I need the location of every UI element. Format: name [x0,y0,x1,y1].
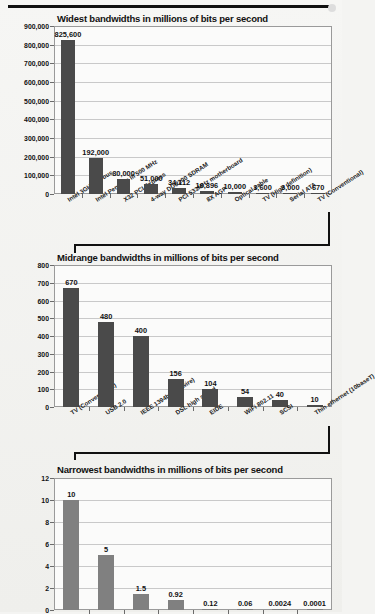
y-axis-tick-mark [50,26,54,27]
chart-title: Narrowest bandwidths in millions of bits… [57,464,283,475]
bar-value-label: 0.0001 [303,599,326,608]
chart-y-axis-label: Millions of Bits per second [0,24,12,184]
bar-value-label: 1.5 [136,584,146,593]
x-axis-tick-mark [193,194,194,198]
y-axis-tick-mark [50,588,54,589]
x-axis-tick-mark [263,610,264,614]
y-axis-tick-label: 900,000 [24,23,49,30]
bar [133,336,149,407]
y-axis-tick-mark [50,101,54,102]
x-axis-tick-mark [193,610,194,614]
chart-widest-bandwidths: Widest bandwidths in millions of bits pe… [0,10,342,230]
grid-line [55,354,331,355]
grid-line [55,119,331,120]
y-axis-tick-label: 800,000 [24,41,49,48]
bar [133,594,149,611]
connector-bracket-1 [0,228,342,252]
y-axis-tick-mark [50,301,54,302]
y-axis-tick-label: 600,000 [24,79,49,86]
bar-value-label: 0.0024 [269,599,292,608]
bar-value-label: 192,000 [82,148,109,157]
x-axis-tick-mark [110,194,111,198]
chart-title: Midrange bandwidths in millions of bits … [57,252,279,263]
bar-value-label: 10 [67,490,75,499]
grid-line [55,372,331,373]
grid-line [55,45,331,46]
y-axis-tick-label: 600 [38,297,50,304]
x-axis-tick-mark [297,407,298,411]
bar [168,379,184,407]
x-axis-tick-mark [276,194,277,198]
x-axis-tick-mark [249,194,250,198]
y-axis-tick-label: 200 [38,368,50,375]
x-axis-tick-mark [89,610,90,614]
grid-line [55,588,331,589]
grid-line [55,301,331,302]
bar [307,609,323,610]
bar-value-label: 0.12 [203,599,217,608]
grid-line [55,500,331,501]
y-axis-tick-mark [50,45,54,46]
y-axis-tick-mark [50,318,54,319]
x-axis-tick-mark [263,407,264,411]
y-axis-tick-label: 100 [38,386,50,393]
y-axis-tick-label: 400,000 [24,116,49,123]
grid-line [55,566,331,567]
y-axis-tick-label: 6 [45,541,49,548]
chart-narrowest-bandwidths: Narrowest bandwidths in millions of bits… [0,462,342,612]
bar-value-label: 34,112 [168,178,190,187]
bar-value-label: 670 [65,278,77,287]
y-axis-tick-label: 0 [45,191,49,198]
y-axis-tick-label: 0 [45,607,49,614]
y-axis-tick-mark [50,478,54,479]
bar-value-label: 5 [104,545,108,554]
y-axis-tick-label: 2 [45,585,49,592]
x-axis-tick-mark [124,407,125,411]
bar-value-label: 0.92 [168,590,182,599]
grid-line [55,82,331,83]
y-axis-tick-label: 8 [45,519,49,526]
grid-line [55,336,331,337]
bar [168,600,184,610]
y-axis-tick-mark [50,372,54,373]
y-axis-tick-label: 300,000 [24,135,49,142]
bar-value-label: 400 [135,326,147,335]
grid-line [55,522,331,523]
grid-line [55,544,331,545]
x-axis-tick-mark [137,194,138,198]
y-axis-tick-mark [50,119,54,120]
y-axis-tick-label: 500 [38,315,50,322]
header-rule [8,5,334,8]
grid-line [55,318,331,319]
bar [272,609,288,610]
grid-line [55,283,331,284]
y-axis-tick-mark [50,354,54,355]
chart-y-axis-label: Millions of Bits per second [0,478,12,608]
y-axis-tick-mark [50,407,54,408]
x-axis-tick-mark [221,194,222,198]
y-axis-tick-mark [50,544,54,545]
y-axis-tick-label: 100,000 [24,172,49,179]
grid-line [55,101,331,102]
x-axis-tick-mark [165,194,166,198]
y-axis-tick-mark [50,63,54,64]
bar [89,158,103,194]
connector-bracket-2 [0,440,342,462]
y-axis-tick-mark [50,157,54,158]
y-axis-tick-mark [50,265,54,266]
bar-value-label: 54 [241,387,249,396]
y-axis-tick-mark [50,522,54,523]
y-axis-tick-label: 12 [41,475,49,482]
y-axis-tick-label: 200,000 [24,153,49,160]
y-axis-tick-label: 500,000 [24,97,49,104]
y-axis-tick-mark [50,175,54,176]
x-axis-tick-mark [297,610,298,614]
x-axis-tick-mark [158,610,159,614]
bar [61,40,75,194]
chart-title: Widest bandwidths in millions of bits pe… [57,13,268,24]
bar-value-label: 0.06 [238,599,252,608]
x-axis-tick-mark [193,407,194,411]
bar-value-label: 16,896 [196,181,219,190]
y-axis-tick-label: 400 [38,333,50,340]
y-axis-tick-mark [50,336,54,337]
